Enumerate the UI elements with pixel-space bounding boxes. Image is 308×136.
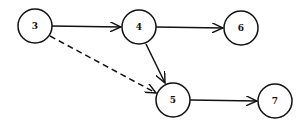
node-5: 5 bbox=[156, 83, 190, 117]
node-7: 7 bbox=[258, 84, 292, 118]
node-label-3: 3 bbox=[32, 21, 38, 31]
edge-4-5 bbox=[146, 44, 165, 83]
node-label-6: 6 bbox=[238, 23, 244, 33]
node-label-7: 7 bbox=[272, 96, 278, 106]
node-label-5: 5 bbox=[170, 95, 176, 105]
node-4: 4 bbox=[122, 10, 156, 44]
edge-5-7 bbox=[190, 100, 257, 101]
edge-4-6 bbox=[156, 27, 223, 28]
edge-3-4 bbox=[52, 26, 121, 27]
node-label-4: 4 bbox=[136, 22, 142, 32]
network-diagram: 3 4 6 5 7 bbox=[0, 0, 308, 136]
node-3: 3 bbox=[18, 9, 52, 43]
node-6: 6 bbox=[224, 11, 258, 45]
